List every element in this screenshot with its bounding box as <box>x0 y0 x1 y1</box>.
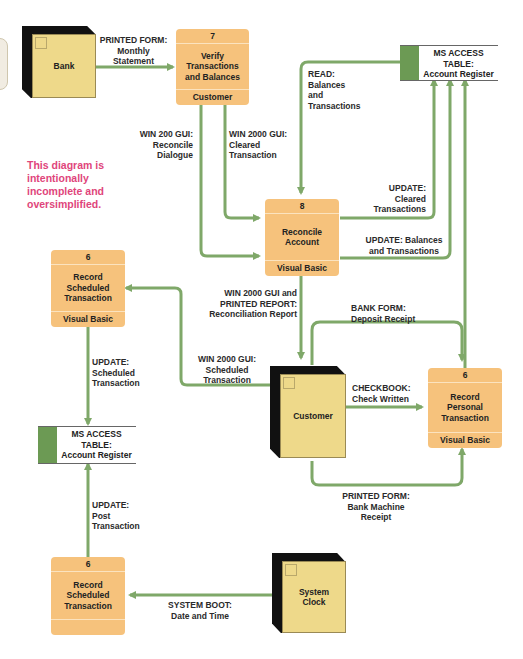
flow-label-update-cleared: UPDATE: Cleared Transactions <box>356 183 426 215</box>
external-entity-bank: Bank <box>22 26 96 98</box>
flow-label-reconcile-dialogue: WIN 200 GUI: Reconcile Dialogue <box>120 129 193 161</box>
process-name: Record Personal Transaction <box>428 383 502 432</box>
process-name: Record Scheduled Transaction <box>51 572 125 619</box>
flow-label-check-written: CHECKBOOK: Check Written <box>352 383 424 404</box>
process-id: 6 <box>51 250 125 265</box>
process-name: Verify Transactions and Balances <box>176 44 249 89</box>
process-location: Visual Basic <box>428 432 502 448</box>
store-id-block <box>38 427 57 463</box>
disclaimer-note: This diagram is intentionally incomplete… <box>27 159 104 211</box>
external-entity-system-clock: System Clock <box>272 553 346 633</box>
process-id: 6 <box>428 368 502 383</box>
flow-label-bank-machine-receipt: PRINTED FORM: Bank Machine Receipt <box>340 491 412 523</box>
data-store-account-register-top: MS ACCESS TABLE: Account Register <box>400 45 498 81</box>
flow-label-reconciliation-report: WIN 2000 GUI and PRINTED REPORT: Reconci… <box>195 288 297 320</box>
process-location: Visual Basic <box>265 260 339 276</box>
process-location: Visual Basic <box>51 311 125 327</box>
flow-label-scheduled-transaction-gui: WIN 2000 GUI: Scheduled Transaction <box>194 354 260 386</box>
process-name: Record Scheduled Transaction <box>51 265 125 311</box>
process-verify-transactions: 7 Verify Transactions and Balances Custo… <box>176 29 249 105</box>
process-id: 8 <box>265 199 339 214</box>
data-store-account-register-left: MS ACCESS TABLE: Account Register <box>38 426 136 464</box>
flow-label-update-post: UPDATE: Post Transaction <box>92 500 162 532</box>
entity-corner-icon <box>35 37 47 49</box>
flow-label-update-balances: UPDATE: Balances and Transactions <box>362 235 446 256</box>
entity-corner-icon <box>283 377 295 389</box>
flow-label-update-scheduled: UPDATE: Scheduled Transaction <box>92 357 162 389</box>
process-record-personal: 6 Record Personal Transaction Visual Bas… <box>428 368 502 448</box>
store-label: MS ACCESS TABLE: Account Register <box>57 427 136 463</box>
store-label: MS ACCESS TABLE: Account Register <box>419 46 498 80</box>
process-reconcile-account: 8 Reconcile Account Visual Basic <box>265 199 339 276</box>
store-id-block <box>400 46 419 80</box>
flow-label-deposit-receipt: BANK FORM: Deposit Receipt <box>351 303 441 324</box>
entity-corner-icon <box>285 564 297 576</box>
flow-label-read-balances: READ: Balances and Transactions <box>308 69 378 111</box>
flow-label-monthly-statement: PRINTED FORM: Monthly Statement <box>96 35 171 67</box>
process-record-scheduled-top: 6 Record Scheduled Transaction Visual Ba… <box>51 250 125 327</box>
flow-label-cleared-transaction: WIN 2000 GUI: Cleared Transaction <box>229 129 309 161</box>
process-location <box>51 619 125 635</box>
process-name: Reconcile Account <box>265 214 339 260</box>
process-id: 7 <box>176 29 249 44</box>
process-id: 6 <box>51 557 125 572</box>
flow-label-system-boot: SYSTEM BOOT: Date and Time <box>160 600 240 621</box>
process-location: Customer <box>176 89 249 105</box>
process-record-scheduled-bottom: 6 Record Scheduled Transaction <box>51 557 125 635</box>
external-entity-customer: Customer <box>270 366 346 458</box>
